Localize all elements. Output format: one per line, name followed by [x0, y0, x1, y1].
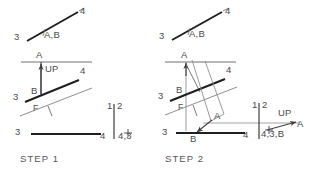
step2-label-b-bottom: B [190, 134, 197, 144]
step1-label-a-fold: A [36, 50, 43, 60]
drawing-canvas: 3 4 A,B A UP 4 3 B F 3 4 1 2 4,3 STEP 1 … [0, 0, 309, 174]
step2-label-ab-top: A,B [189, 29, 205, 39]
step2-fold-tick [193, 105, 197, 116]
step1-label-hinge-point: 4,3 [118, 131, 132, 141]
step2-projector-band-right [205, 61, 224, 114]
step-1-geometry [20, 8, 132, 139]
step1-label-up: UP [45, 64, 59, 74]
step2-label-up: UP [278, 108, 292, 118]
step2-label-f: F [178, 103, 183, 112]
step2-arrow-a-to-b [197, 120, 212, 132]
step1-fold-tick [48, 106, 52, 116]
step2-label-3-bottom: 3 [162, 127, 167, 137]
step2-label-3-mid: 3 [158, 91, 163, 101]
geometry-svg [0, 0, 309, 174]
step2-label-hinge-1: 1 [252, 100, 257, 110]
step-2-geometry [165, 8, 300, 139]
step2-label-4-mid: 4 [226, 65, 231, 75]
step2-label-hinge-2: 2 [262, 100, 267, 110]
step1-label-hinge-1: 1 [107, 101, 112, 111]
step2-label-4-bottom: 4 [243, 130, 248, 140]
step2-label-up-end-a: A [297, 119, 304, 129]
step2-label-3-top: 3 [159, 31, 164, 41]
step2-label-a-lower: A [214, 111, 221, 121]
step2-label-4-top: 4 [225, 6, 230, 16]
step1-label-f: F [33, 104, 38, 113]
step2-label-hinge-point: 4,3,B [261, 129, 284, 139]
step1-label-hinge-2: 2 [117, 101, 122, 111]
step1-label-3-bottom: 3 [15, 127, 20, 137]
step1-caption: STEP 1 [20, 154, 59, 164]
step1-label-b-mid: B [31, 86, 38, 96]
step1-label-3-mid: 3 [13, 92, 18, 102]
step2-label-a-fold: A [181, 50, 188, 60]
step2-caption: STEP 2 [165, 154, 204, 164]
step1-label-3-top: 3 [14, 32, 19, 42]
step1-label-4-top: 4 [80, 6, 85, 16]
step1-label-ab-top: A,B [44, 30, 60, 40]
step2-label-b-mid: B [176, 85, 183, 95]
step1-label-4-bottom: 4 [100, 131, 105, 141]
step1-label-4-mid: 4 [80, 66, 85, 76]
